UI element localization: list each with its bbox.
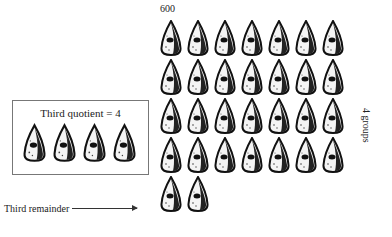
grid-item — [211, 59, 238, 98]
arrowhead-icon — [268, 59, 290, 95]
arrowhead-icon — [322, 137, 344, 173]
grid-item — [211, 98, 238, 137]
arrowhead-icon — [187, 59, 209, 95]
grid-item — [157, 20, 184, 59]
arrowhead-icon — [187, 20, 209, 56]
arrowhead-icon — [241, 137, 263, 173]
grid-item — [319, 20, 346, 59]
arrowhead-icon — [295, 20, 317, 56]
total-label: 600 — [160, 3, 175, 14]
arrowhead-icon — [214, 20, 236, 56]
groups-label: 4 groups — [361, 108, 372, 143]
arrowhead-icon — [23, 123, 46, 163]
right-arrow-icon — [72, 208, 137, 209]
remainder-label: Third remainder — [4, 203, 69, 214]
arrowhead-icon — [295, 98, 317, 134]
arrowhead-icon — [322, 59, 344, 95]
grid-item — [292, 98, 319, 137]
arrowhead-icon — [322, 20, 344, 56]
arrowhead-icon — [241, 20, 263, 56]
arrowhead-icon — [268, 98, 290, 134]
arrowhead-grid — [157, 20, 346, 215]
grid-item — [292, 20, 319, 59]
grid-item — [238, 20, 265, 59]
arrowhead-icon — [53, 123, 76, 163]
arrowhead-icon — [160, 137, 182, 173]
arrowhead-icon — [295, 137, 317, 173]
grid-item — [184, 20, 211, 59]
quotient-box: Third quotient = 4 — [12, 100, 149, 175]
grid-item — [184, 98, 211, 137]
arrowhead-icon — [187, 176, 209, 212]
arrowhead-icon — [241, 98, 263, 134]
quotient-items — [23, 123, 136, 163]
grid-item — [211, 20, 238, 59]
arrowhead-icon — [322, 98, 344, 134]
grid-item — [265, 20, 292, 59]
arrowhead-icon — [268, 20, 290, 56]
arrowhead-icon — [214, 98, 236, 134]
arrowhead-icon — [160, 98, 182, 134]
grid-item — [157, 137, 184, 176]
arrowhead-icon — [83, 123, 106, 163]
arrowhead-icon — [113, 123, 136, 163]
remainder-item — [157, 176, 184, 215]
arrowhead-icon — [160, 176, 182, 212]
grid-item — [265, 137, 292, 176]
arrowhead-icon — [160, 20, 182, 56]
quotient-box-title: Third quotient = 4 — [13, 107, 148, 119]
grid-item — [292, 137, 319, 176]
grid-item — [157, 98, 184, 137]
arrowhead-icon — [187, 137, 209, 173]
arrowhead-icon — [214, 137, 236, 173]
grid-item — [184, 137, 211, 176]
grid-item — [184, 59, 211, 98]
remainder-item — [184, 176, 211, 215]
grid-item — [238, 98, 265, 137]
grid-item — [265, 59, 292, 98]
arrowhead-icon — [187, 98, 209, 134]
grid-item — [238, 59, 265, 98]
remainder-label-group: Third remainder — [4, 203, 137, 214]
arrowhead-icon — [241, 59, 263, 95]
grid-item — [211, 137, 238, 176]
grid-item — [157, 59, 184, 98]
grid-item — [319, 59, 346, 98]
grid-item — [319, 98, 346, 137]
grid-item — [319, 137, 346, 176]
arrowhead-icon — [160, 59, 182, 95]
grid-item — [265, 98, 292, 137]
grid-item — [238, 137, 265, 176]
arrowhead-icon — [214, 59, 236, 95]
arrowhead-icon — [295, 59, 317, 95]
grid-item — [292, 59, 319, 98]
arrowhead-icon — [268, 137, 290, 173]
